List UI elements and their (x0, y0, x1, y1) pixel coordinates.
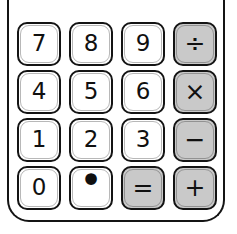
key-1[interactable]: 1 (17, 118, 61, 162)
digit-six: 6 (136, 80, 151, 103)
key-multiply[interactable]: × (173, 70, 217, 114)
multiply-icon: × (185, 79, 206, 104)
key-6[interactable]: 6 (121, 70, 165, 114)
digit-three: 3 (136, 128, 151, 151)
digit-two: 2 (84, 128, 99, 151)
calculator-keypad: 789÷456×123−0•=+ (0, 0, 237, 234)
key-minus[interactable]: − (173, 118, 217, 162)
key-3[interactable]: 3 (121, 118, 165, 162)
digit-five: 5 (84, 80, 99, 103)
divide-icon: ÷ (185, 31, 206, 56)
key-divide[interactable]: ÷ (173, 22, 217, 66)
key-7[interactable]: 7 (17, 22, 61, 66)
equals-icon: = (133, 175, 154, 200)
key-equals[interactable]: = (121, 166, 165, 210)
key-plus[interactable]: + (173, 166, 217, 210)
digit-zero: 0 (32, 176, 47, 199)
key-8[interactable]: 8 (69, 22, 113, 66)
keypad-grid: 789÷456×123−0•=+ (17, 22, 217, 212)
digit-four: 4 (32, 80, 47, 103)
digit-seven: 7 (32, 32, 47, 55)
key-9[interactable]: 9 (121, 22, 165, 66)
plus-icon: + (185, 175, 206, 200)
key-4[interactable]: 4 (17, 70, 61, 114)
key-2[interactable]: 2 (69, 118, 113, 162)
digit-eight: 8 (84, 32, 99, 55)
key-0[interactable]: 0 (17, 166, 61, 210)
key-decimal[interactable]: • (69, 166, 113, 210)
decimal-point-icon: • (79, 160, 103, 200)
digit-nine: 9 (136, 32, 151, 55)
key-5[interactable]: 5 (69, 70, 113, 114)
digit-one: 1 (32, 128, 47, 151)
minus-icon: − (185, 127, 206, 152)
